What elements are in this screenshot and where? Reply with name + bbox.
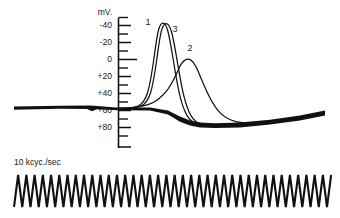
y-axis-label--40: -40 xyxy=(100,20,113,30)
y-axis xyxy=(119,18,138,149)
baseline-sweep-trace xyxy=(14,106,325,128)
y-axis-label--20: -20 xyxy=(100,37,113,47)
timebase-wave-path xyxy=(14,175,331,207)
y-axis-label-+40: +40 xyxy=(98,88,113,98)
y-axis-label-+80: +80 xyxy=(98,122,113,132)
y-axis-label-0: 0 xyxy=(107,54,112,64)
y-axis-unit-label: mV. xyxy=(98,7,112,17)
figure-root: mV. -40 -20 0 +20 +40 +60 +80 1 3 2 10 k… xyxy=(0,0,340,218)
baseline-notch-marker xyxy=(86,109,98,112)
curve-label-2: 2 xyxy=(187,43,192,53)
timebase-wave xyxy=(14,175,331,207)
curve-2-trace xyxy=(119,59,258,124)
curve-label-1: 1 xyxy=(145,17,150,27)
y-axis-label-+20: +20 xyxy=(98,71,113,81)
action-potential-figure: mV. -40 -20 0 +20 +40 +60 +80 1 3 2 10 k… xyxy=(0,0,340,218)
timebase-caption: 10 kcyc./sec xyxy=(14,157,62,167)
curve-label-3: 3 xyxy=(172,24,177,34)
